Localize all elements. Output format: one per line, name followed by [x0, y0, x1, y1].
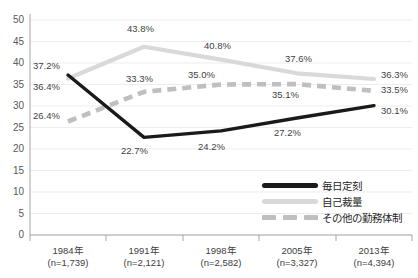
data-label-mainichi-2005: 27.2%: [274, 128, 301, 138]
data-label-sonota-2013: 33.5%: [381, 85, 408, 95]
data-label-jiko-1984: 36.4%: [33, 82, 60, 92]
x-tick-1998: 1998年 (n=2,582): [181, 245, 261, 269]
legend-swatch-dashed-gray: [262, 209, 318, 225]
data-label-jiko-1998: 40.8%: [204, 41, 231, 51]
x-tick-1991-n: (n=2,121): [104, 257, 184, 269]
x-tick-1998-year: 1998年: [181, 245, 261, 257]
legend: 毎日定刻 自己裁量 その他の勤務体制: [262, 177, 402, 225]
x-tick-2005-year: 2005年: [257, 245, 337, 257]
legend-swatch-solid-lightgray: [262, 193, 318, 209]
x-tick-1984-n: (n=1,739): [28, 257, 108, 269]
y-tick-50: 50: [2, 15, 24, 25]
data-label-mainichi-1998: 24.2%: [198, 142, 225, 152]
data-label-mainichi-1984: 37.2%: [33, 61, 60, 71]
legend-label-sonota-kinmutaisei: その他の勤務体制: [322, 210, 402, 225]
data-label-sonota-1998: 35.0%: [188, 70, 215, 80]
legend-swatch-solid-black: [262, 177, 318, 193]
y-tick-0: 0: [2, 230, 24, 240]
x-tick-2013-year: 2013年: [334, 245, 414, 257]
y-tick-20: 20: [2, 144, 24, 154]
legend-item-mainichi-teikoku[interactable]: 毎日定刻: [262, 177, 402, 193]
data-label-sonota-1984: 26.4%: [33, 111, 60, 121]
y-tick-45: 45: [2, 37, 24, 47]
x-tick-1984: 1984年 (n=1,739): [28, 245, 108, 269]
legend-label-mainichi-teikoku: 毎日定刻: [322, 178, 362, 193]
x-tick-1998-n: (n=2,582): [181, 257, 261, 269]
y-tick-40: 40: [2, 58, 24, 68]
x-tick-2013-n: (n=4,394): [334, 257, 414, 269]
data-label-jiko-2005: 37.6%: [285, 54, 312, 64]
x-tick-1991: 1991年 (n=2,121): [104, 245, 184, 269]
legend-item-sonota-kinmutaisei[interactable]: その他の勤務体制: [262, 209, 402, 225]
data-label-jiko-2013: 36.3%: [381, 70, 408, 80]
x-tick-1984-year: 1984年: [28, 245, 108, 257]
x-tick-2005: 2005年 (n=3,327): [257, 245, 337, 269]
data-label-mainichi-2013: 30.1%: [381, 106, 408, 116]
y-tick-5: 5: [2, 209, 24, 219]
y-tick-15: 15: [2, 166, 24, 176]
x-tick-2005-n: (n=3,327): [257, 257, 337, 269]
legend-label-jiko-sairyo: 自己裁量: [322, 194, 362, 209]
data-label-jiko-1991: 43.8%: [127, 24, 154, 34]
data-label-mainichi-1991: 22.7%: [121, 146, 148, 156]
y-tick-30: 30: [2, 101, 24, 111]
x-tick-2013: 2013年 (n=4,394): [334, 245, 414, 269]
y-tick-10: 10: [2, 187, 24, 197]
x-tick-marks: [30, 235, 412, 241]
data-label-sonota-1991: 33.3%: [126, 74, 153, 84]
y-tick-35: 35: [2, 80, 24, 90]
data-label-sonota-2005: 35.1%: [272, 90, 299, 100]
x-tick-1991-year: 1991年: [104, 245, 184, 257]
y-tick-25: 25: [2, 123, 24, 133]
series-line-sonota-kinmutaisei: [68, 84, 374, 121]
legend-item-jiko-sairyo[interactable]: 自己裁量: [262, 193, 402, 209]
line-chart: 0 5 10 15 20 25 30 35 40 45 50 1984年 (n=…: [0, 0, 418, 278]
